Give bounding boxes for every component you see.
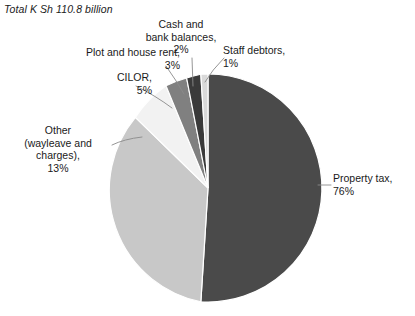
slice-label-property-tax: Property tax, 76% (333, 172, 415, 197)
slice-label-plot-and-house-rent: Plot and house rent, 3% (54, 46, 180, 71)
pie-slice-property-tax[interactable] (201, 74, 322, 302)
pie-chart-figure: Total K Sh 110.8 billion Cash (0, 0, 415, 316)
slice-label-cilor: CILOR, 5% (62, 71, 152, 96)
slice-label-staff-debtors: Staff debtors, 1% (223, 44, 327, 69)
slice-label-other-wayleave-and-charges: Other (wayleave and charges), 13% (6, 124, 110, 174)
